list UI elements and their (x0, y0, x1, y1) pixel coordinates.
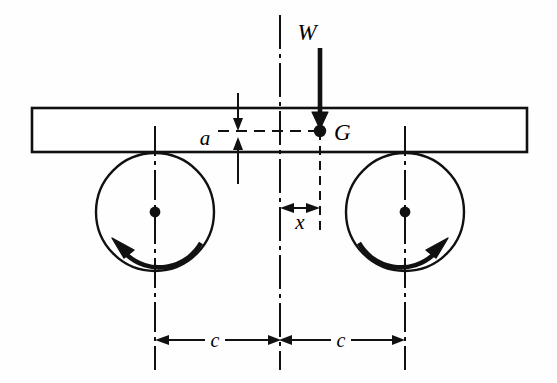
dimension-c-left-outer-arrowhead (155, 335, 169, 345)
figure-canvas: W G a x (0, 0, 557, 383)
dimension-c-left-label: c (211, 329, 220, 351)
right-roller-rotation-arc (359, 243, 433, 267)
weight-label: W (297, 20, 318, 45)
dimension-x-label: x (294, 210, 305, 234)
dimension-x-left-arrowhead (280, 203, 294, 213)
dimension-c-right-label: c (337, 329, 346, 351)
center-of-gravity-dot (314, 125, 326, 137)
dimension-x-group: x (280, 203, 320, 234)
left-roller-rotation-arc (127, 243, 201, 267)
mechanics-diagram: W G a x (0, 0, 557, 383)
dimension-x-right-arrowhead (306, 203, 320, 213)
center-of-gravity-label: G (334, 120, 351, 145)
dimension-c-right-outer-arrowhead (392, 335, 405, 345)
dimension-a-label: a (200, 126, 211, 150)
